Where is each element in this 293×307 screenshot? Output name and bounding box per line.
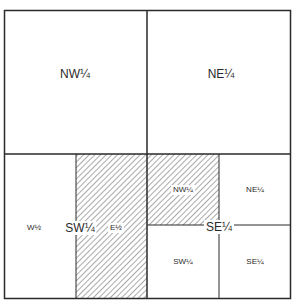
se-sw-label: SW¼: [173, 258, 193, 266]
sw-quarter-label: SW¼: [63, 221, 96, 235]
ne-quarter-label: NE¼: [208, 68, 235, 80]
nw-quarter-label: NW¼: [60, 68, 90, 80]
se-quarter-label: SE¼: [204, 220, 234, 234]
se-ne-label: NE¼: [246, 186, 264, 194]
se-se-label: SE¼: [246, 258, 263, 266]
se-nw-label: NW¼: [171, 185, 195, 195]
sw-west-half-label: W½: [27, 224, 41, 232]
sw-east-half-label: E½: [108, 223, 124, 233]
